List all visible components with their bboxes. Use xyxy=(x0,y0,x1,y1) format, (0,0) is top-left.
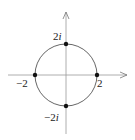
point-top xyxy=(64,42,68,46)
point-left xyxy=(33,73,37,77)
label-right: 2 xyxy=(97,77,103,89)
complex-plane-diagram: 2i −2i −2 2 xyxy=(0,0,135,140)
label-left: −2 xyxy=(16,77,28,89)
point-bottom xyxy=(64,104,68,108)
label-top: 2i xyxy=(53,30,62,42)
label-bottom: −2i xyxy=(44,111,59,123)
